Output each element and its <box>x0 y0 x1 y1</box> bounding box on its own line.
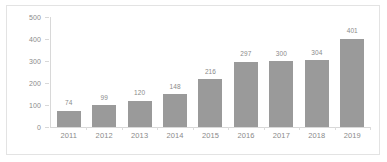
plot-area: 0100200300400500 74991201482162973003044… <box>7 6 379 154</box>
x-axis-tick-mark <box>299 127 300 130</box>
y-axis-tick-mark <box>45 39 49 40</box>
x-axis-tick-label: 2013 <box>131 132 148 140</box>
x-axis-tick-mark <box>228 127 229 130</box>
bar-value-label: 99 <box>100 95 107 102</box>
x-axis-tick-label: 2017 <box>273 132 290 140</box>
bar[interactable] <box>340 39 364 127</box>
y-axis-tick-mark <box>45 61 49 62</box>
bar-group: 304 <box>299 17 334 127</box>
chart-card: 0100200300400500 74991201482162973003044… <box>6 5 380 155</box>
x-axis-tick-mark <box>335 127 336 130</box>
y-axis-tick-label: 0 <box>37 124 41 131</box>
bar-group: 120 <box>122 17 157 127</box>
bar-value-label: 304 <box>311 50 322 57</box>
y-axis-tick-mark <box>45 83 49 84</box>
bar[interactable] <box>269 61 293 127</box>
y-axis-tick-label: 100 <box>29 102 41 109</box>
bar-group: 300 <box>264 17 299 127</box>
bar-group: 216 <box>193 17 228 127</box>
bar-value-label: 120 <box>134 90 145 97</box>
x-axis-tick-mark <box>157 127 158 130</box>
bars-container: 7499120148216297300304401 <box>51 17 370 127</box>
y-axis-tick-mark <box>45 127 49 128</box>
x-axis-tick-mark <box>86 127 87 130</box>
x-axis-tick-label: 2015 <box>202 132 219 140</box>
y-axis-tick-mark <box>45 105 49 106</box>
bar-value-label: 216 <box>205 69 216 76</box>
y-axis-tick-label: 300 <box>29 58 41 65</box>
bar-value-label: 297 <box>240 51 251 58</box>
x-axis-tick-mark <box>122 127 123 130</box>
x-axis-tick-mark <box>370 127 371 130</box>
x-axis-tick-label: 2012 <box>96 132 113 140</box>
x-axis-tick-label: 2018 <box>308 132 325 140</box>
bar-value-label: 148 <box>169 84 180 91</box>
bar-group: 297 <box>228 17 263 127</box>
bar[interactable] <box>92 105 116 127</box>
x-axis-tick-label: 2014 <box>167 132 184 140</box>
y-axis-tick-label: 400 <box>29 36 41 43</box>
x-axis-tick-labels: 201120122013201420152016201720182019 <box>51 132 370 148</box>
y-axis-tick-labels: 0100200300400500 <box>7 17 45 127</box>
bar[interactable] <box>163 94 187 127</box>
bar-group: 99 <box>86 17 121 127</box>
x-axis-line <box>50 127 370 128</box>
y-axis-tick-mark <box>45 17 49 18</box>
bar[interactable] <box>198 79 222 127</box>
bar-group: 401 <box>335 17 370 127</box>
y-axis-tick-label: 500 <box>29 14 41 21</box>
x-axis-tick-mark <box>193 127 194 130</box>
x-axis-tick-label: 2019 <box>344 132 361 140</box>
bar-value-label: 300 <box>276 51 287 58</box>
x-axis-tick-mark <box>264 127 265 130</box>
bar[interactable] <box>128 101 152 127</box>
bar-group: 148 <box>157 17 192 127</box>
bar[interactable] <box>57 111 81 127</box>
x-axis-tick-label: 2011 <box>60 132 77 140</box>
x-axis-tick-label: 2016 <box>237 132 254 140</box>
y-axis-tick-label: 200 <box>29 80 41 87</box>
bar[interactable] <box>305 60 329 127</box>
bar-value-label: 74 <box>65 100 72 107</box>
bar[interactable] <box>234 62 258 127</box>
bar-group: 74 <box>51 17 86 127</box>
bar-value-label: 401 <box>347 28 358 35</box>
